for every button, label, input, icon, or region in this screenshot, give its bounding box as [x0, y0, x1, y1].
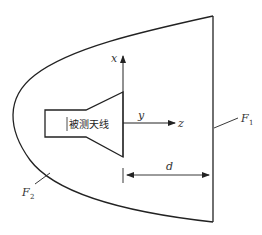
x-axis-label: x [111, 52, 118, 65]
z-axis-label: z [177, 117, 184, 130]
f2-leader-line [35, 173, 50, 184]
antenna-measurement-diagram: 被测天线 x y z F 1 F 2 d [0, 0, 262, 235]
f2-label: F 2 [21, 186, 34, 201]
f1-leader-line [214, 118, 238, 128]
svg-text:F: F [240, 112, 249, 125]
d-dimension-label: d [166, 160, 173, 173]
svg-text:F: F [21, 186, 30, 199]
svg-text:2: 2 [30, 193, 34, 201]
y-axis-label: y [137, 109, 145, 122]
antenna-label: 被测天线 [69, 118, 109, 130]
svg-text:1: 1 [249, 119, 253, 127]
f1-label: F 1 [240, 112, 253, 127]
